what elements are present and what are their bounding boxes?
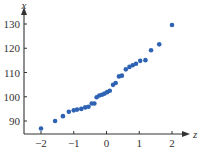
data-point [113, 81, 118, 86]
data-points [39, 23, 175, 131]
x-tick-label: 2 [169, 137, 175, 149]
normal-probability-plot: −2−101290100110120130zx [0, 0, 201, 155]
y-tick-label: 110 [4, 67, 21, 79]
x-tick-label: 0 [104, 137, 110, 149]
y-tick-label: 100 [4, 91, 21, 103]
x-tick-label: −2 [35, 137, 47, 149]
data-point [39, 126, 44, 131]
x-axis-arrow-icon [182, 131, 190, 137]
data-point [75, 107, 80, 112]
data-point [134, 61, 139, 66]
data-point [143, 58, 148, 63]
x-tick-label: 1 [137, 137, 143, 149]
data-point [149, 48, 154, 53]
x-axis-label: z [192, 128, 198, 140]
y-tick-label: 120 [4, 42, 21, 54]
data-point [79, 107, 84, 112]
y-axis-label: x [21, 0, 27, 11]
data-point [61, 114, 66, 119]
axes: −2−101290100110120130zx [4, 0, 199, 149]
data-point [92, 101, 97, 106]
data-point [67, 109, 72, 114]
data-point [53, 119, 58, 124]
x-tick-label: −1 [68, 137, 80, 149]
data-point [157, 42, 162, 47]
y-tick-label: 130 [4, 18, 21, 30]
y-tick-label: 90 [9, 115, 21, 127]
data-point [107, 88, 112, 93]
data-point [120, 73, 125, 78]
data-point [170, 23, 175, 28]
data-point [138, 59, 143, 64]
